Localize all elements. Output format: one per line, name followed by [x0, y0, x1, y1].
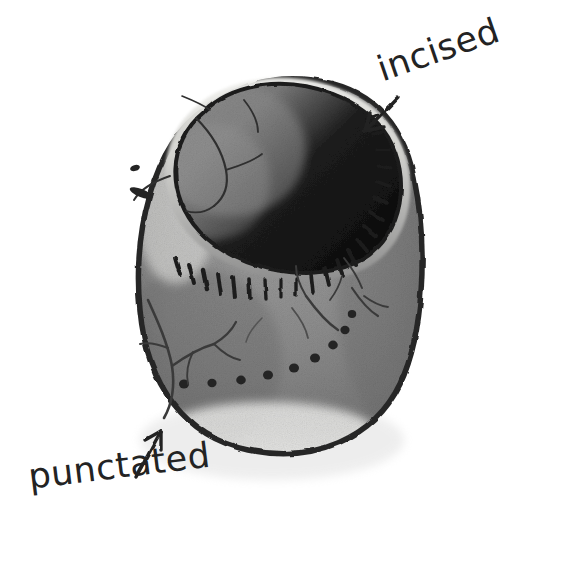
figure-panel: incised punctated [0, 0, 568, 565]
interior-chips [128, 164, 153, 202]
vessel-illustration [0, 0, 568, 565]
